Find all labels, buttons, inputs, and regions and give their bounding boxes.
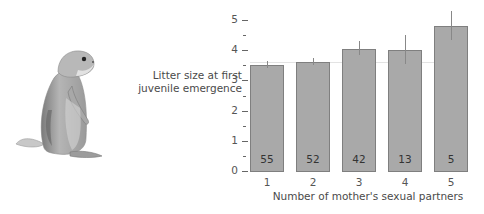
sample-size-label: 5 — [434, 153, 468, 165]
y-tick-label: 3 — [224, 73, 238, 85]
y-tick-mark — [242, 50, 248, 51]
x-tick-label: 5 — [441, 176, 461, 188]
y-tick-label: 4 — [224, 43, 238, 55]
error-bar — [267, 61, 268, 68]
bar-chart: 01234555152242313455 — [0, 0, 484, 214]
x-tick-label: 1 — [257, 176, 277, 188]
error-bar — [451, 11, 452, 40]
y-tick-mark — [242, 141, 248, 142]
y-minor-tick-mark — [243, 65, 246, 66]
error-bar — [359, 41, 360, 55]
sample-size-label: 55 — [250, 153, 284, 165]
y-minor-tick-mark — [243, 96, 246, 97]
x-tick-label: 2 — [303, 176, 323, 188]
error-bar — [405, 35, 406, 64]
y-tick-label: 0 — [224, 164, 238, 176]
y-tick-mark — [242, 20, 248, 21]
y-minor-tick-mark — [243, 35, 246, 36]
y-minor-tick-mark — [243, 156, 246, 157]
y-tick-mark — [242, 171, 248, 172]
x-tick-label: 3 — [349, 176, 369, 188]
y-minor-tick-mark — [243, 126, 246, 127]
y-tick-label: 5 — [224, 13, 238, 25]
x-tick-label: 4 — [395, 176, 415, 188]
bar — [434, 26, 468, 172]
y-tick-mark — [242, 80, 248, 81]
error-bar — [313, 58, 314, 65]
y-tick-label: 1 — [224, 134, 238, 146]
y-tick-label: 2 — [224, 104, 238, 116]
y-tick-mark — [242, 111, 248, 112]
sample-size-label: 42 — [342, 153, 376, 165]
sample-size-label: 13 — [388, 153, 422, 165]
sample-size-label: 52 — [296, 153, 330, 165]
x-axis-title: Number of mother's sexual partners — [268, 190, 468, 202]
